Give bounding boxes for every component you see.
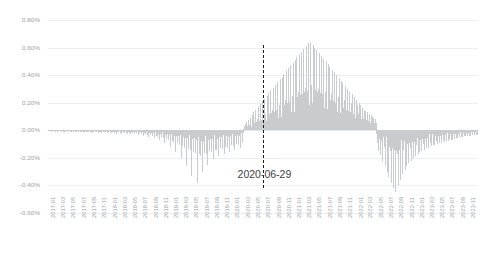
x-axis-tick-label: 2023-07 xyxy=(449,197,455,218)
x-axis-tick-label: 2019-09 xyxy=(214,197,220,218)
x-axis-tick-label: 2018-09 xyxy=(153,197,159,218)
x-axis-labels: 2017-012017-032017-052017-072017-092017-… xyxy=(0,0,493,258)
chart-container: 0.80%0.60%0.40%0.20%0.00%-0.20%-0.40%-0.… xyxy=(0,0,493,258)
x-axis-tick-label: 2019-05 xyxy=(193,197,199,218)
x-axis-tick-label: 2018-05 xyxy=(132,197,138,218)
x-axis-tick-label: 2017-05 xyxy=(70,197,76,218)
x-axis-tick-label: 2017-09 xyxy=(91,197,97,218)
x-axis-tick-label: 2022-07 xyxy=(388,197,394,218)
x-axis-tick-label: 2018-07 xyxy=(142,197,148,218)
x-axis-tick-label: 2019-01 xyxy=(173,197,179,218)
x-axis-tick-label: 2019-11 xyxy=(224,197,230,218)
x-axis-tick-label: 2020-11 xyxy=(286,197,292,218)
x-axis-tick-label: 2023-01 xyxy=(419,197,425,218)
x-axis-tick-label: 2022-11 xyxy=(409,197,415,218)
x-axis-tick-label: 2023-11 xyxy=(470,197,476,218)
x-axis-tick-label: 2022-05 xyxy=(378,197,384,218)
x-axis-tick-label: 2022-01 xyxy=(358,197,364,218)
x-axis-tick-label: 2023-03 xyxy=(429,197,435,218)
x-axis-tick-label: 2017-07 xyxy=(81,197,87,218)
x-axis-tick-label: 2023-05 xyxy=(439,197,445,218)
x-axis-tick-label: 2018-01 xyxy=(112,197,118,218)
x-axis-tick-label: 2021-01 xyxy=(296,197,302,218)
x-axis-tick-label: 2019-07 xyxy=(204,197,210,218)
x-axis-tick-label: 2020-03 xyxy=(245,197,251,218)
x-axis-tick-label: 2021-11 xyxy=(347,197,353,218)
x-axis-tick-label: 2020-05 xyxy=(255,197,261,218)
x-axis-tick-label: 2017-01 xyxy=(50,197,56,218)
x-axis-tick-label: 2021-09 xyxy=(337,197,343,218)
x-axis-tick-label: 2020-07 xyxy=(265,197,271,218)
x-axis-tick-label: 2021-07 xyxy=(327,197,333,218)
x-axis-tick-label: 2020-01 xyxy=(234,197,240,218)
x-axis-tick-label: 2022-09 xyxy=(398,197,404,218)
x-axis-tick-label: 2021-03 xyxy=(306,197,312,218)
x-axis-tick-label: 2023-09 xyxy=(460,197,466,218)
x-axis-tick-label: 2018-03 xyxy=(122,197,128,218)
x-axis-tick-label: 2017-11 xyxy=(101,197,107,218)
x-axis-tick-label: 2021-05 xyxy=(316,197,322,218)
x-axis-tick-label: 2018-11 xyxy=(163,197,169,218)
x-axis-tick-label: 2017-03 xyxy=(60,197,66,218)
x-axis-tick-label: 2022-03 xyxy=(367,197,373,218)
x-axis-tick-label: 2020-09 xyxy=(276,197,282,218)
x-axis-tick-label: 2019-03 xyxy=(183,197,189,218)
